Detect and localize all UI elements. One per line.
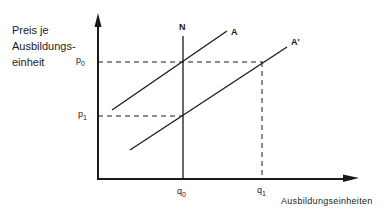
label-A: A: [231, 27, 238, 37]
p0-label: p0: [76, 55, 85, 67]
q0-subscript: 0: [182, 191, 186, 198]
label-A-prime: A': [291, 37, 300, 47]
p0-subscript: 0: [81, 60, 85, 67]
y-axis-label-line-3: einheit: [12, 54, 76, 70]
p1-subscript: 1: [83, 114, 87, 121]
x-axis-label: Ausbildungseinheiten: [281, 196, 373, 206]
q1-subscript: 1: [262, 190, 266, 197]
q1-label: q1: [257, 185, 266, 197]
y-axis-label: Preis je Ausbildungs- einheit: [12, 22, 76, 70]
y-axis-arrow-icon: [95, 13, 102, 27]
p1-label: p1: [78, 109, 87, 121]
y-axis-label-line-2: Ausbildungs-: [12, 38, 76, 54]
x-axis-arrow-icon: [343, 175, 359, 183]
q0-label: q0: [177, 186, 186, 198]
label-N: N: [179, 22, 186, 32]
y-axis-label-line-1: Preis je: [12, 22, 76, 38]
